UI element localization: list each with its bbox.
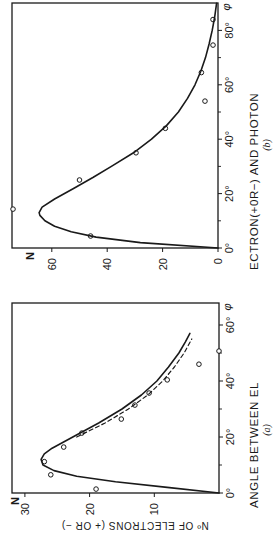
y-tick-label: 60: [46, 258, 58, 270]
x-tick-label: 60°: [223, 76, 235, 93]
solid-theory-curve: [41, 333, 219, 493]
data-point: [211, 43, 216, 48]
y-axis-title-a-short: N: [9, 497, 21, 505]
phi-symbol: φ: [221, 303, 233, 310]
x-axis-title-part-b: ECTRON(+0R−) AND PHOTON: [248, 93, 260, 270]
data-point: [197, 362, 202, 367]
solid-theory-curve: [39, 3, 218, 248]
data-point: [61, 445, 66, 450]
y-tick-label: 0: [212, 258, 224, 264]
figure: 0°20°40°60°80°φ0204060 0°20°40°60°φ10203…: [0, 0, 273, 535]
y-tick-label: 10: [148, 503, 160, 515]
x-tick-label: 80°: [223, 22, 235, 39]
data-point: [94, 487, 99, 492]
x-tick-label: 20°: [224, 429, 236, 446]
panel-label-b: (b): [261, 139, 273, 151]
data-point: [217, 349, 222, 354]
x-tick-label: 0°: [223, 243, 235, 254]
data-point: [48, 473, 53, 478]
y-axis-title-b: N: [24, 252, 36, 260]
phi-symbol: φ: [220, 3, 232, 10]
y-tick-label: 20: [84, 503, 96, 515]
y-tick-label: 40: [101, 258, 113, 270]
data-point: [203, 99, 208, 104]
x-tick-label: 60°: [224, 317, 236, 334]
chart-panel-a: 0°20°40°60°φ102030: [12, 303, 236, 515]
x-tick-label: 0°: [224, 488, 236, 499]
data-point: [77, 178, 82, 183]
panel-label-a: (a): [261, 424, 273, 436]
x-tick-label: 20°: [223, 185, 235, 202]
dashed-theory-curve: [77, 339, 192, 437]
data-point: [11, 207, 16, 212]
figure-canvas: 0°20°40°60°80°φ0204060 0°20°40°60°φ10203…: [0, 0, 273, 535]
plot-frame: [12, 3, 218, 248]
y-axis-title-a: Nº OF ELECTRONS (+ OR −): [61, 520, 209, 531]
y-tick-label: 20: [157, 258, 169, 270]
chart-panel-b: 0°20°40°60°80°φ0204060: [11, 3, 235, 270]
x-tick-label: 40°: [224, 373, 236, 390]
x-axis-title-part-a: ANGLE BETWEEN EL: [248, 382, 260, 508]
data-point: [119, 417, 124, 422]
x-tick-label: 40°: [223, 131, 235, 148]
